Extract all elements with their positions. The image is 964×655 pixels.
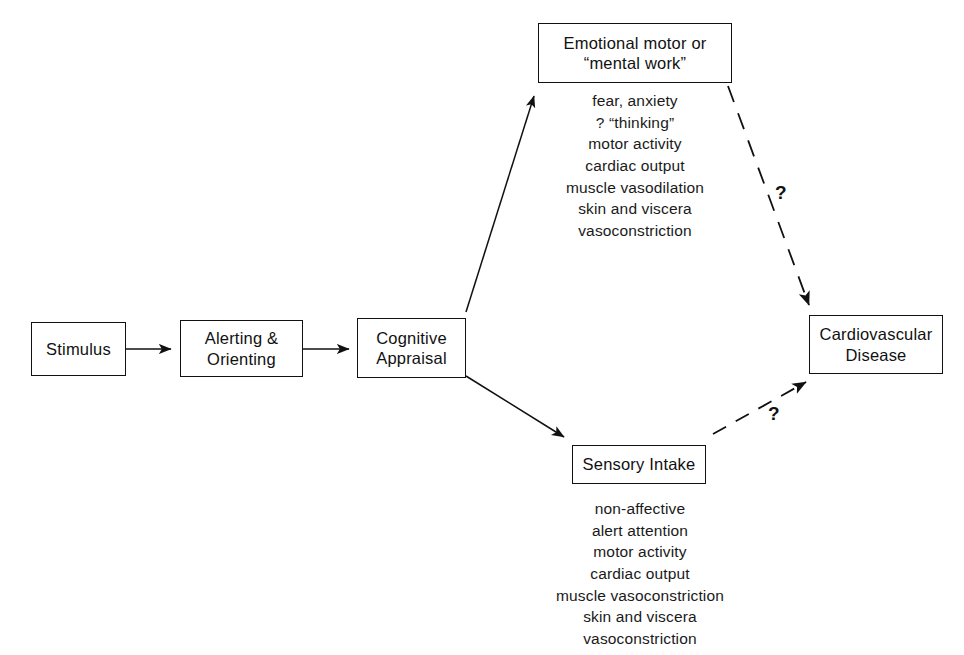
node-cognitive-line1: Cognitive	[376, 328, 447, 348]
list-item: cardiac output	[527, 155, 743, 177]
node-cardiovascular-disease[interactable]: Cardiovascular Disease	[809, 315, 943, 374]
list-item: alert attention	[524, 520, 756, 542]
list-item: cardiac output	[524, 563, 756, 585]
list-item: vasoconstriction	[527, 220, 743, 242]
list-item: motor activity	[527, 133, 743, 155]
node-sensory-label: Sensory Intake	[583, 454, 696, 474]
node-cvd-line2: Disease	[820, 345, 933, 365]
list-item: skin and viscera	[527, 198, 743, 220]
node-alerting-orienting[interactable]: Alerting & Orienting	[180, 320, 303, 377]
list-item: vasoconstriction	[524, 628, 756, 650]
node-cognitive-appraisal[interactable]: Cognitive Appraisal	[357, 318, 466, 378]
list-item: skin and viscera	[524, 606, 756, 628]
list-item: muscle vasoconstriction	[524, 585, 756, 607]
node-cvd-line1: Cardiovascular	[820, 324, 933, 344]
list-item: muscle vasodilation	[527, 177, 743, 199]
node-emotional-motor[interactable]: Emotional motor or “mental work”	[538, 23, 732, 83]
node-sensory-intake[interactable]: Sensory Intake	[572, 445, 706, 484]
diagram-canvas: Stimulus Alerting & Orienting Cognitive …	[0, 0, 964, 655]
node-emotional-line2: “mental work”	[564, 53, 707, 73]
node-emotional-line1: Emotional motor or	[564, 33, 707, 53]
emotional-effects-list: fear, anxiety? “thinking”motor activityc…	[527, 90, 743, 242]
node-stimulus[interactable]: Stimulus	[31, 322, 126, 376]
edge-cognitive-to-sensory	[466, 376, 564, 437]
node-cognitive-line2: Appraisal	[376, 348, 447, 368]
sensory-effects-list: non-affectivealert attentionmotor activi…	[524, 498, 756, 650]
node-stimulus-label: Stimulus	[46, 339, 111, 359]
question-mark-upper: ?	[775, 183, 787, 202]
list-item: non-affective	[524, 498, 756, 520]
list-item: motor activity	[524, 541, 756, 563]
list-item: ? “thinking”	[527, 112, 743, 134]
node-alerting-line2: Orienting	[205, 349, 279, 369]
node-alerting-line1: Alerting &	[205, 328, 279, 348]
edge-cognitive-to-emotional	[466, 96, 534, 312]
question-mark-lower: ?	[768, 404, 780, 423]
edge-sensory-to-cardiovascular	[713, 382, 806, 434]
list-item: fear, anxiety	[527, 90, 743, 112]
